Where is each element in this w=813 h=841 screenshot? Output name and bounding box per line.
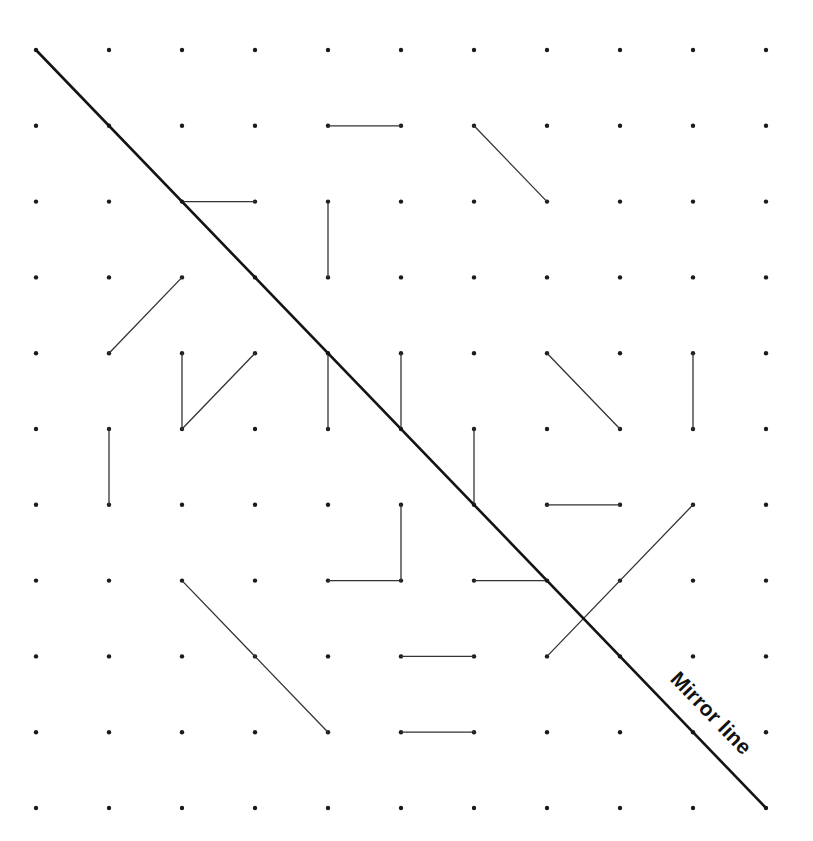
grid-dot [764, 48, 768, 52]
grid-dot [691, 578, 695, 582]
grid-dot [472, 806, 476, 810]
grid-dot [34, 578, 38, 582]
grid-dot [34, 806, 38, 810]
mirror-diagram: Mirror line [0, 0, 813, 841]
grid-dot [180, 48, 184, 52]
grid-dot [34, 199, 38, 203]
line-segment [547, 353, 620, 429]
grid-dot [764, 351, 768, 355]
grid-dot [545, 730, 549, 734]
grid-dot [34, 427, 38, 431]
grid-dot [691, 48, 695, 52]
grid-dot [326, 654, 330, 658]
grid-dot [180, 654, 184, 658]
line-segment [547, 505, 693, 657]
grid-dot [545, 275, 549, 279]
grid-dot [253, 578, 257, 582]
grid-dot [107, 654, 111, 658]
grid-dot [253, 48, 257, 52]
grid-dot [618, 48, 622, 52]
line-segment [109, 277, 182, 353]
grid-dot [399, 806, 403, 810]
grid-dot [764, 275, 768, 279]
grid-dot [472, 48, 476, 52]
grid-dot [618, 199, 622, 203]
grid-dot [618, 730, 622, 734]
grid-dot [618, 124, 622, 128]
grid-dot [691, 654, 695, 658]
grid-dot [399, 48, 403, 52]
grid-dot [764, 427, 768, 431]
grid-dot [472, 199, 476, 203]
grid-dot [764, 578, 768, 582]
grid-dot [764, 199, 768, 203]
grid-dot [107, 578, 111, 582]
grid-dot [253, 503, 257, 507]
grid-dot [180, 124, 184, 128]
mirror-line [36, 50, 766, 808]
grid-dot [253, 124, 257, 128]
mirror-line-label: Mirror line [666, 667, 756, 759]
grid-dot [34, 124, 38, 128]
grid-dot [764, 503, 768, 507]
grid-dot [180, 806, 184, 810]
grid-dot [253, 427, 257, 431]
grid-dot [691, 806, 695, 810]
grid-dot [107, 730, 111, 734]
line-segment [182, 581, 328, 733]
grid-dot [107, 199, 111, 203]
line-segment [182, 353, 255, 429]
grid-dot [545, 124, 549, 128]
grid-dot [545, 48, 549, 52]
grid-dot [326, 806, 330, 810]
grid-dot [618, 275, 622, 279]
grid-dot [326, 48, 330, 52]
grid-dot [34, 654, 38, 658]
grid-dot [691, 124, 695, 128]
grid-dot [545, 427, 549, 431]
grid-dot [618, 351, 622, 355]
grid-dot [691, 199, 695, 203]
grid-dot [34, 730, 38, 734]
grid-dot [34, 275, 38, 279]
grid-dot [399, 199, 403, 203]
grid-dot [34, 351, 38, 355]
grid-dot [764, 124, 768, 128]
line-segment [474, 126, 547, 202]
grid-dot [691, 275, 695, 279]
grid-dot [326, 503, 330, 507]
grid-dot [399, 275, 403, 279]
grid-dot [107, 806, 111, 810]
grid-dot [618, 806, 622, 810]
grid-dot [180, 730, 184, 734]
grid-dot [107, 48, 111, 52]
grid-dot [764, 730, 768, 734]
grid-dot [472, 275, 476, 279]
grid-dot [107, 275, 111, 279]
grid-dot [253, 730, 257, 734]
grid-dot [472, 351, 476, 355]
grid-dot [764, 654, 768, 658]
grid-dot [545, 806, 549, 810]
grid-dot [180, 503, 184, 507]
grid-dot [253, 806, 257, 810]
mirror-line-group: Mirror line [36, 50, 766, 808]
grid-dot [34, 503, 38, 507]
